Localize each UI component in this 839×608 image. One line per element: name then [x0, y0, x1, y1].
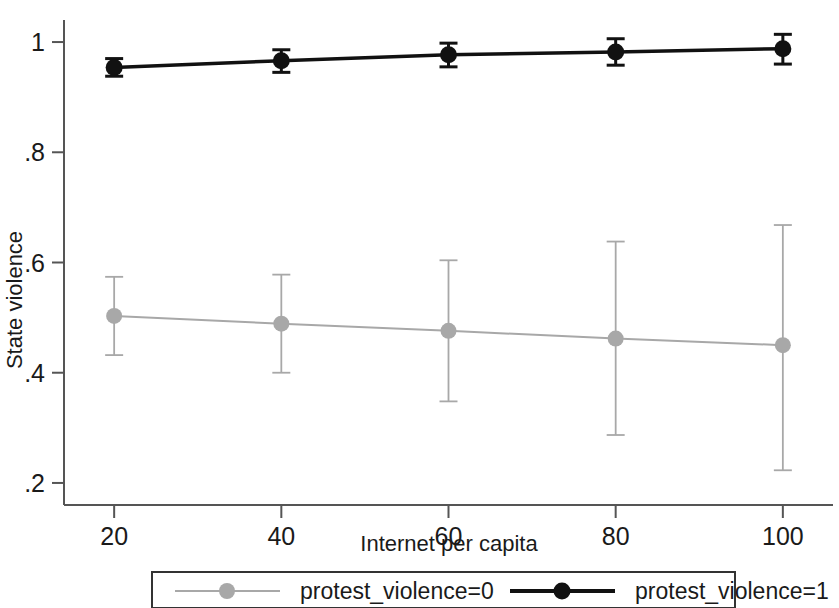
data-point-marker	[106, 59, 123, 76]
chart-background	[0, 0, 839, 608]
x-axis-title: Internet per capita	[360, 531, 538, 556]
legend-marker-swatch	[219, 583, 235, 599]
x-tick-label: 40	[267, 522, 295, 550]
y-axis-title: State violence	[2, 231, 27, 369]
x-tick-label: 80	[602, 522, 630, 550]
state-violence-line-chart: 1.8.6.4.2 20406080100 State violence Int…	[0, 0, 839, 608]
y-tick-label: .2	[24, 469, 45, 497]
x-tick-label: 20	[100, 522, 128, 550]
data-point-marker	[775, 337, 791, 353]
data-point-marker	[273, 52, 290, 69]
data-point-marker	[273, 316, 289, 332]
y-tick-label: .4	[24, 359, 45, 387]
data-point-marker	[441, 323, 457, 339]
y-tick-label: 1	[31, 28, 45, 56]
data-point-marker	[774, 40, 791, 57]
data-point-marker	[607, 43, 624, 60]
data-point-marker	[106, 308, 122, 324]
data-point-marker	[608, 331, 624, 347]
legend-label: protest_violence=0	[300, 578, 494, 604]
x-tick-label: 100	[762, 522, 804, 550]
y-tick-label: .6	[24, 249, 45, 277]
legend-marker-swatch	[554, 583, 571, 600]
chart-figure: 1.8.6.4.2 20406080100 State violence Int…	[0, 0, 839, 608]
legend-label: protest_violence=1	[635, 578, 829, 604]
data-point-marker	[440, 46, 457, 63]
y-tick-label: .8	[24, 138, 45, 166]
